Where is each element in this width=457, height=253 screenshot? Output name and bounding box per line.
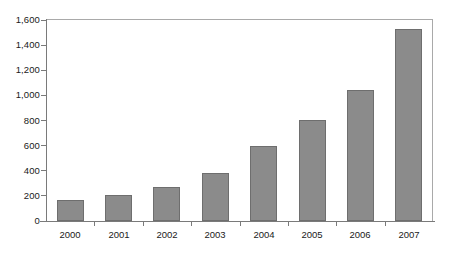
y-axis-tick-label: 800 bbox=[4, 116, 40, 126]
x-axis-tick-label: 2006 bbox=[336, 230, 384, 240]
x-axis-tick bbox=[143, 221, 144, 226]
x-axis-tick-label: 2000 bbox=[46, 230, 94, 240]
x-axis-tick-label: 2007 bbox=[385, 230, 433, 240]
x-axis-tick-label: 2003 bbox=[191, 230, 239, 240]
y-axis-tick-label: 1,200 bbox=[4, 65, 40, 75]
plot-area-frame bbox=[46, 19, 433, 222]
x-axis-tick bbox=[240, 221, 241, 226]
y-axis-tick bbox=[41, 70, 46, 71]
y-axis-tick-label: 200 bbox=[4, 191, 40, 201]
y-axis-tick-label: 0 bbox=[4, 216, 40, 226]
bar-2001[interactable] bbox=[105, 195, 132, 221]
x-axis-tick-label: 2002 bbox=[143, 230, 191, 240]
bar-2004[interactable] bbox=[250, 146, 277, 221]
y-axis-tick-label: 600 bbox=[4, 141, 40, 151]
x-axis-tick bbox=[336, 221, 337, 226]
y-axis-tick bbox=[41, 145, 46, 146]
y-axis-tick bbox=[41, 195, 46, 196]
bar-2007[interactable] bbox=[395, 29, 422, 221]
x-axis-tick bbox=[191, 221, 192, 226]
bar-2006[interactable] bbox=[347, 90, 374, 221]
y-axis-tick bbox=[41, 170, 46, 171]
x-axis-origin-tick bbox=[41, 221, 46, 222]
bar-2003[interactable] bbox=[202, 173, 229, 221]
x-axis-line bbox=[40, 221, 435, 222]
y-axis-tick bbox=[41, 95, 46, 96]
y-axis-tick-label: 1,600 bbox=[4, 15, 40, 25]
y-axis-tick-label: 400 bbox=[4, 166, 40, 176]
y-axis-tick bbox=[41, 45, 46, 46]
y-axis-tick-label: 1,400 bbox=[4, 40, 40, 50]
y-axis-tick bbox=[41, 120, 46, 121]
y-axis-tick-label: 1,000 bbox=[4, 90, 40, 100]
bar-2002[interactable] bbox=[153, 187, 180, 221]
y-axis-tick bbox=[41, 20, 46, 21]
x-axis-tick-label: 2004 bbox=[240, 230, 288, 240]
x-axis-tick-label: 2005 bbox=[288, 230, 336, 240]
bar-chart: 02004006008001,0001,2001,4001,600 200020… bbox=[0, 0, 457, 253]
x-axis-tick bbox=[288, 221, 289, 226]
x-axis-tick bbox=[94, 221, 95, 226]
bar-2000[interactable] bbox=[57, 200, 84, 221]
bar-2005[interactable] bbox=[299, 120, 326, 221]
x-axis-tick-label: 2001 bbox=[95, 230, 143, 240]
y-axis-line bbox=[46, 19, 47, 222]
x-axis-tick bbox=[385, 221, 386, 226]
